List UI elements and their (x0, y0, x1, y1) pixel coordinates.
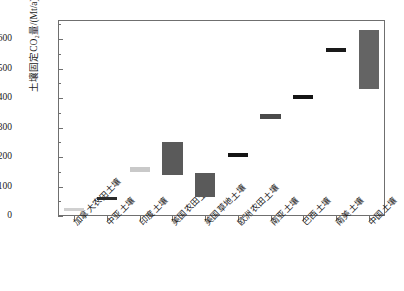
chart-container: 土壤固定CO₂量/(Mt/a) 0100200300400500600 加拿大农… (0, 0, 404, 291)
y-tick-label-500: 500 (0, 64, 12, 74)
y-tick-label-0: 0 (0, 211, 12, 221)
y-tick-400 (58, 98, 63, 99)
y-tick-100 (58, 187, 63, 188)
y-tick-minor-450 (58, 83, 61, 84)
range-bar (326, 48, 346, 52)
y-tick-minor-150 (58, 172, 61, 173)
range-bar (359, 30, 379, 89)
range-bar (195, 173, 215, 197)
y-tick-0 (58, 216, 63, 217)
y-tick-label-200: 200 (0, 152, 12, 162)
y-tick-minor-350 (58, 113, 61, 114)
range-bar (162, 142, 182, 174)
y-tick-label-300: 300 (0, 123, 12, 133)
range-bar (228, 153, 248, 157)
y-axis-title: 土壤固定CO₂量/(Mt/a) (26, 0, 40, 120)
y-tick-minor-250 (58, 142, 61, 143)
range-bar (130, 167, 150, 171)
range-bar (97, 197, 117, 200)
y-tick-minor-650 (58, 24, 61, 25)
y-tick-label-100: 100 (0, 182, 12, 192)
range-bar (64, 208, 84, 211)
range-bar (293, 95, 313, 99)
range-bar (260, 114, 280, 118)
y-tick-minor-550 (58, 54, 61, 55)
y-tick-500 (58, 69, 63, 70)
y-tick-300 (58, 128, 63, 129)
y-tick-600 (58, 39, 63, 40)
y-tick-200 (58, 157, 63, 158)
y-tick-minor-50 (58, 201, 61, 202)
y-tick-label-600: 600 (0, 34, 12, 44)
y-tick-label-400: 400 (0, 93, 12, 103)
